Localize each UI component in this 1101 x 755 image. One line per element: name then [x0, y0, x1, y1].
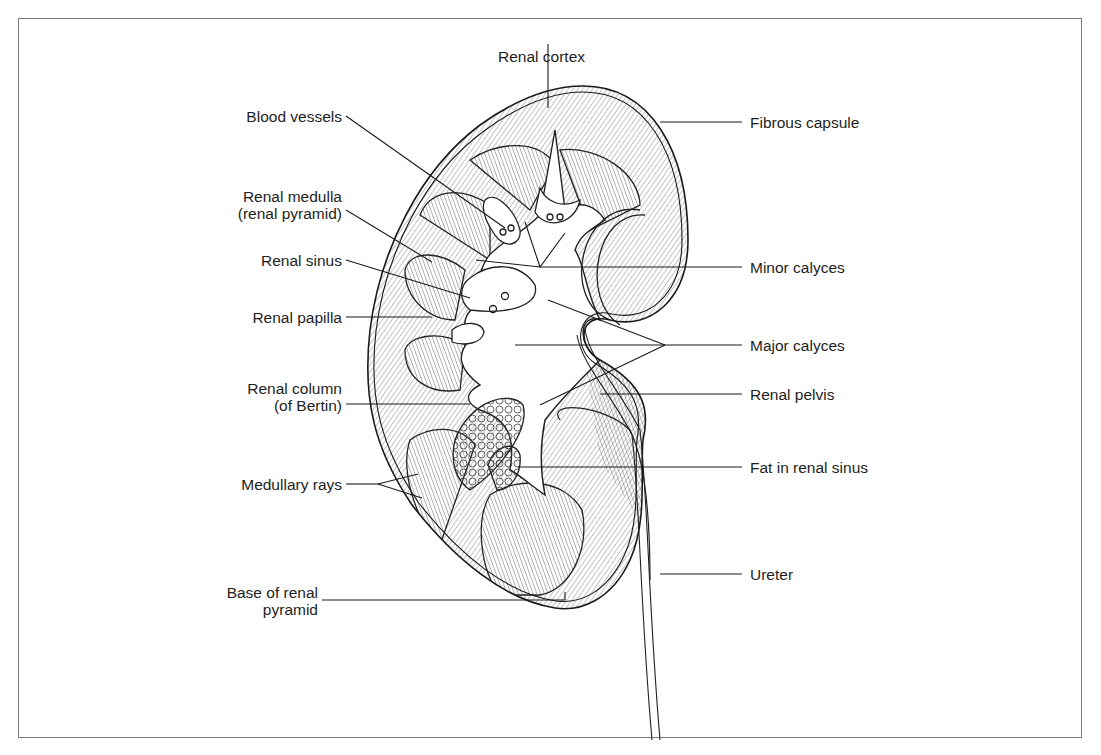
label-base-of-pyramid-line1: Base of renal [188, 584, 318, 601]
label-renal-sinus: Renal sinus [222, 252, 342, 269]
label-renal-medulla: Renal medulla (renal pyramid) [192, 188, 342, 222]
label-renal-medulla-line2: (renal pyramid) [192, 205, 342, 222]
label-major-calyces: Major calyces [750, 337, 845, 354]
label-renal-medulla-line1: Renal medulla [192, 188, 342, 205]
label-renal-column-line1: Renal column [212, 380, 342, 397]
label-renal-column: Renal column (of Bertin) [212, 380, 342, 414]
kidney-illustration [0, 0, 1101, 755]
label-base-of-renal-pyramid: Base of renal pyramid [188, 584, 318, 618]
label-fibrous-capsule: Fibrous capsule [750, 114, 859, 131]
label-renal-papilla: Renal papilla [212, 309, 342, 326]
label-renal-cortex: Renal cortex [498, 48, 585, 65]
label-renal-pelvis: Renal pelvis [750, 386, 834, 403]
label-medullary-rays: Medullary rays [202, 476, 342, 493]
label-fat-in-renal-sinus: Fat in renal sinus [750, 459, 868, 476]
label-renal-column-line2: (of Bertin) [212, 397, 342, 414]
label-ureter: Ureter [750, 566, 793, 583]
label-blood-vessels: Blood vessels [222, 108, 342, 125]
label-minor-calyces: Minor calyces [750, 259, 845, 276]
label-base-of-pyramid-line2: pyramid [188, 601, 318, 618]
